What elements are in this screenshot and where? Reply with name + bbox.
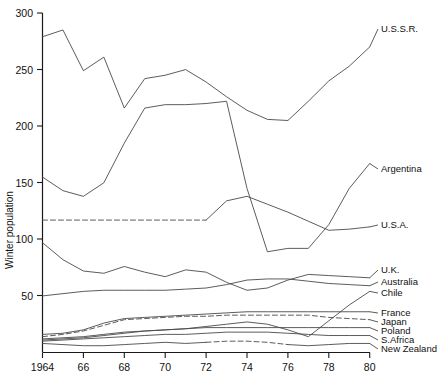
leader-line — [370, 164, 378, 169]
series-new-zealand — [43, 341, 370, 346]
y-axis-ticks — [37, 13, 43, 296]
y-axis-title: Winter population — [4, 191, 15, 269]
y-tick-label: 250 — [15, 64, 33, 76]
series-france — [43, 312, 370, 335]
leader-line — [370, 320, 378, 322]
leader-line — [370, 29, 378, 47]
y-tick-label: 200 — [15, 120, 33, 132]
leader-line — [370, 336, 378, 340]
series-line — [206, 196, 370, 230]
x-tick-label: 80 — [364, 361, 376, 373]
x-tick-label: 72 — [200, 361, 212, 373]
series-line — [206, 341, 288, 344]
series-layer — [43, 30, 370, 346]
series-line — [43, 279, 370, 296]
series-line — [43, 101, 370, 252]
series-line — [288, 343, 370, 345]
y-tick-label: 300 — [15, 7, 33, 19]
series-label-australia: Australia — [381, 276, 419, 287]
winter-population-chart: 300 250 200 150 100 50 1964 66 68 70 72 — [0, 0, 439, 377]
x-axis-tick-labels: 1964 66 68 70 72 74 76 78 80 — [31, 361, 376, 373]
leader-line — [370, 343, 378, 349]
series-chile — [43, 291, 370, 339]
leader-line — [370, 282, 378, 286]
leader-line — [370, 312, 378, 313]
leader-line-layer — [370, 29, 378, 349]
series-label-u-k: U.K. — [381, 264, 399, 275]
x-tick-label: 70 — [159, 361, 171, 373]
leader-line — [370, 291, 378, 293]
x-tick-label: 78 — [323, 361, 335, 373]
x-tick-label: 74 — [241, 361, 253, 373]
x-tick-label: 68 — [118, 361, 130, 373]
series-label-argentina: Argentina — [381, 163, 422, 174]
leader-line — [370, 270, 378, 278]
y-tick-label: 150 — [15, 177, 33, 189]
series-label-new-zealand: New Zealand — [381, 343, 437, 354]
series-australia — [43, 279, 370, 296]
series-label-chile: Chile — [381, 287, 403, 298]
series-label-u-s-a: U.S.A. — [381, 219, 408, 230]
y-axis-tick-labels: 300 250 200 150 100 50 — [15, 7, 33, 302]
series-line — [43, 342, 207, 345]
x-tick-label: 76 — [282, 361, 294, 373]
leader-line — [370, 225, 378, 227]
series-argentina — [43, 101, 370, 252]
x-axis-ticks — [43, 353, 370, 359]
series-line — [43, 30, 370, 121]
series-label-u-s-s-r: U.S.S.R. — [381, 23, 418, 34]
chart-canvas: 300 250 200 150 100 50 1964 66 68 70 72 — [0, 0, 439, 377]
x-tick-label: 66 — [78, 361, 90, 373]
x-tick-label: 1964 — [31, 361, 55, 373]
series-line — [43, 243, 370, 291]
series-u-s-s-r — [43, 30, 370, 121]
series-line — [43, 312, 370, 335]
series-line — [43, 291, 370, 339]
leader-line — [370, 328, 378, 331]
series-u-k — [43, 243, 370, 291]
y-tick-label: 100 — [15, 233, 33, 245]
series-u-s-a — [43, 196, 370, 230]
series-label-layer: U.S.S.R.ArgentinaU.S.A.U.K.AustraliaChil… — [381, 23, 437, 354]
y-tick-label: 50 — [21, 290, 33, 302]
